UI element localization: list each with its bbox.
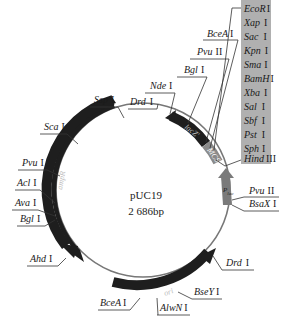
site-pvu2-top: PvuII bbox=[196, 46, 222, 57]
site-drd-right: DrdI bbox=[225, 257, 249, 268]
plasmid-name: pUC19 bbox=[130, 189, 162, 201]
svg-text:SmaI: SmaI bbox=[244, 59, 268, 70]
plac-arrowhead bbox=[218, 168, 234, 178]
ampr-arrowhead bbox=[60, 244, 78, 258]
site-ssp: SspI bbox=[94, 94, 114, 105]
svg-text:BamHI: BamHI bbox=[244, 73, 274, 84]
site-alwn: AlwNI bbox=[159, 302, 188, 313]
site-nde: NdeI bbox=[149, 80, 172, 91]
site-ahd: AhdI bbox=[29, 253, 52, 264]
site-bcea-top: BceAI bbox=[207, 28, 233, 39]
svg-text:PstI: PstI bbox=[243, 129, 265, 140]
leader-alwn bbox=[157, 298, 158, 315]
svg-text:XapI: XapI bbox=[243, 17, 267, 28]
site-bgl-top: BglI bbox=[184, 64, 204, 75]
site-bgl-left: BglI bbox=[20, 213, 40, 224]
ampr-label: ampR bbox=[55, 170, 67, 190]
svg-text:SbfI: SbfI bbox=[244, 115, 265, 126]
site-bsey: BseYI bbox=[194, 286, 219, 297]
site-bsax: BsaXI bbox=[249, 198, 276, 209]
svg-text:SalI: SalI bbox=[244, 101, 265, 112]
site-ava: AvaI bbox=[14, 197, 36, 208]
svg-text:EcoRI: EcoRI bbox=[243, 3, 270, 14]
site-acl: AclI bbox=[16, 177, 37, 188]
svg-text:HindIII: HindIII bbox=[243, 153, 276, 164]
site-pvu2-right: PvuII bbox=[248, 185, 274, 196]
site-pvu1: PvuI bbox=[21, 157, 44, 168]
site-sca: ScaI bbox=[44, 121, 65, 132]
svg-text:KpnI: KpnI bbox=[243, 45, 268, 56]
plasmid-map: ampR ori lacZ' MCS Plac EcoRI XapI SacI … bbox=[0, 0, 292, 331]
site-drd-top: DrdI bbox=[129, 96, 153, 107]
site-bcea-bottom: BceAI bbox=[100, 297, 126, 308]
svg-text:SacI: SacI bbox=[244, 31, 267, 42]
plasmid-size: 2 686bp bbox=[128, 205, 164, 217]
ori-band bbox=[113, 252, 208, 285]
ori-label: ori bbox=[163, 286, 175, 298]
svg-text:XbaI: XbaI bbox=[243, 87, 267, 98]
